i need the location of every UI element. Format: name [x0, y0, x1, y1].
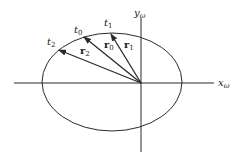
- vector-label-sub: 2: [85, 50, 89, 58]
- time-label-t1: t1: [104, 18, 113, 30]
- vector-label-sub: 1: [129, 44, 133, 52]
- time-label-t2: t2: [47, 37, 56, 49]
- time-label-sub: 1: [108, 22, 112, 30]
- vector-label-sub: 0: [109, 44, 113, 52]
- time-label-t0: t0: [74, 25, 83, 37]
- vector-label-r2: r2: [80, 46, 90, 58]
- vector-label-r0: r0: [104, 40, 114, 52]
- y-axis-label-sub: ω: [140, 12, 146, 20]
- x-axis-label-sub: ω: [224, 82, 230, 90]
- time-label-sub: 2: [51, 41, 55, 49]
- orbit-diagram: [0, 0, 241, 161]
- vector-label-r1: r1: [124, 40, 134, 52]
- x-axis-label: xω: [218, 78, 229, 90]
- position-vector-r2: [59, 50, 141, 83]
- y-axis-label: yω: [134, 8, 145, 20]
- time-label-sub: 0: [78, 29, 82, 37]
